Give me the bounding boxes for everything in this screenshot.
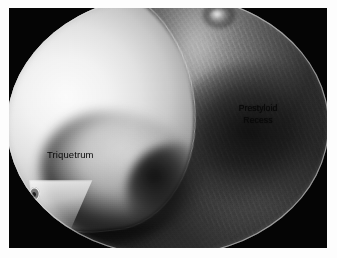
arthroscope-field-of-view	[9, 8, 327, 248]
light-reflection-highlight-icon	[210, 9, 227, 22]
fluid-bubble-core	[32, 192, 36, 197]
annotation-label-prestyloid-line-1: Prestyloid	[233, 103, 283, 115]
annotation-label-prestyloid-line-2: Recess	[233, 115, 283, 127]
annotation-label-prestyloid-recess: PrestyloidRecess	[233, 103, 283, 126]
photo-frame: Triquetrum PrestyloidRecess	[9, 8, 327, 248]
annotation-label-triquetrum: Triquetrum	[47, 149, 94, 160]
figure-root: Triquetrum PrestyloidRecess	[0, 0, 337, 258]
